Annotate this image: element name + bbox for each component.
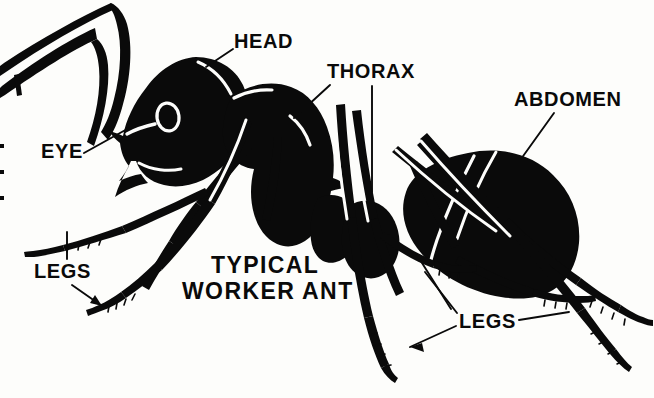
label-legs-right: LEGS	[459, 311, 516, 331]
figure-title-line-1: TYPICAL	[211, 254, 319, 277]
label-abdomen: ABDOMEN	[514, 89, 622, 109]
label-eye: EYE	[41, 141, 83, 161]
figure-title-line-2: WORKER ANT	[182, 280, 354, 303]
label-head: HEAD	[234, 31, 293, 51]
label-thorax: THORAX	[327, 61, 415, 81]
ant-diagram-figure: HEAD THORAX ABDOMEN EYE LEGS LEGS TYPICA…	[0, 0, 654, 398]
label-legs-left: LEGS	[34, 261, 91, 281]
